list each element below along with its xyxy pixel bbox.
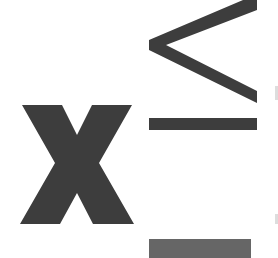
x-glyph [20,105,134,224]
bottom-bar [149,239,251,258]
less-than-glyph [149,0,257,103]
math-figure [0,0,278,258]
edge-mark [275,86,278,100]
equal-underline-bar [149,118,257,130]
edge-mark [275,214,278,224]
